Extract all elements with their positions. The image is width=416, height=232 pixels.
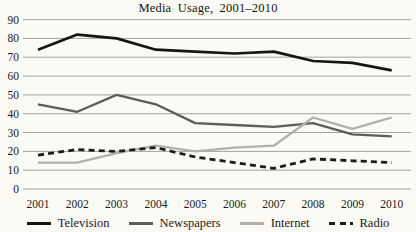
series-line-television — [38, 35, 392, 71]
y-axis-tick-label: 0 — [13, 183, 19, 195]
legend-label: Radio — [360, 216, 390, 231]
x-axis-tick-label: 2004 — [144, 198, 167, 210]
series-line-radio — [38, 148, 392, 169]
x-axis-tick-label: 2005 — [184, 198, 207, 210]
y-axis-tick-label: 70 — [8, 51, 20, 63]
legend-item-newspapers: Newspapers — [129, 216, 221, 231]
legend: TelevisionNewspapersInternetRadio — [0, 216, 416, 231]
legend-swatch-newspapers — [129, 222, 153, 224]
legend-swatch-television — [27, 222, 51, 225]
x-axis-tick-label: 2002 — [66, 198, 89, 210]
legend-item-television: Television — [27, 216, 110, 231]
y-axis-tick-label: 50 — [8, 89, 20, 101]
legend-swatch-internet — [240, 222, 264, 224]
y-axis-tick-label: 90 — [8, 14, 20, 26]
legend-item-radio: Radio — [329, 216, 390, 231]
y-axis-tick-label: 20 — [8, 145, 20, 157]
y-axis-tick-label: 60 — [8, 70, 20, 82]
x-axis-tick-label: 2003 — [105, 198, 128, 210]
y-axis-tick-label: 80 — [8, 32, 20, 44]
x-axis-tick-label: 2007 — [262, 198, 285, 210]
y-axis-tick-label: 40 — [8, 108, 20, 120]
media-usage-chart: Media Usage, 2001–2010 01020304050607080… — [0, 0, 416, 232]
plot-area: 0102030405060708090200120022003200420052… — [0, 0, 416, 232]
x-axis-tick-label: 2009 — [341, 198, 364, 210]
x-axis-tick-label: 2006 — [223, 198, 246, 210]
y-axis-tick-label: 10 — [8, 164, 20, 176]
y-axis-tick-label: 30 — [8, 127, 20, 139]
legend-swatch-radio — [329, 222, 353, 225]
series-line-newspapers — [38, 95, 392, 136]
legend-item-internet: Internet — [240, 216, 310, 231]
legend-label: Internet — [271, 216, 310, 231]
legend-label: Television — [58, 216, 110, 231]
x-axis-tick-label: 2010 — [380, 198, 403, 210]
legend-label: Newspapers — [160, 216, 221, 231]
x-axis-tick-label: 2008 — [302, 198, 325, 210]
x-axis-tick-label: 2001 — [27, 198, 50, 210]
